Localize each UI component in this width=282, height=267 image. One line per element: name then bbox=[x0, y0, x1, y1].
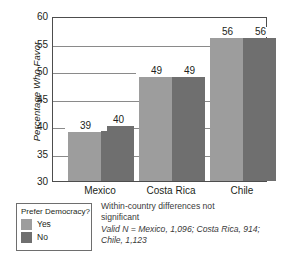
x-label-mexico: Mexico bbox=[84, 185, 116, 197]
legend-item-yes[interactable]: Yes bbox=[21, 219, 87, 230]
bar-label-costa-rica-no: 49 bbox=[169, 66, 211, 76]
legend: Prefer Democracy? Yes No bbox=[16, 203, 92, 251]
legend-item-no[interactable]: No bbox=[21, 232, 87, 243]
bar-label-mexico-no: 40 bbox=[98, 115, 140, 125]
note-line-3: Valid N = Mexico, 1,096; Costa Rica, 914… bbox=[101, 224, 279, 235]
bar-mexico-yes[interactable] bbox=[68, 132, 101, 182]
y-tick-label-35: 35 bbox=[18, 150, 48, 160]
bar-chile-yes[interactable] bbox=[210, 38, 243, 181]
chart-note: Within-country differences not significa… bbox=[101, 201, 279, 247]
bar-group-costa-rica: 49 49 bbox=[139, 18, 205, 181]
y-tick-label-40: 40 bbox=[18, 122, 48, 132]
plot-area: 39 40 49 49 56 56 bbox=[52, 17, 267, 182]
y-axis-ticks: 30 35 40 45 50 55 60 bbox=[18, 17, 48, 182]
legend-label-no: No bbox=[37, 232, 48, 243]
legend-title: Prefer Democracy? bbox=[21, 207, 87, 217]
bar-costa-rica-yes[interactable] bbox=[139, 77, 172, 182]
x-label-chile: Chile bbox=[231, 185, 254, 197]
legend-label-yes: Yes bbox=[37, 219, 51, 230]
note-line-1: Within-country differences not bbox=[101, 201, 279, 212]
bar-mexico-no[interactable] bbox=[101, 126, 134, 181]
bar-group-chile: 56 56 bbox=[210, 18, 276, 181]
y-tick-label-55: 55 bbox=[18, 40, 48, 50]
bars-layer: 39 40 49 49 56 56 bbox=[53, 18, 266, 181]
note-line-2: significant bbox=[101, 212, 279, 223]
bar-costa-rica-no[interactable] bbox=[172, 77, 205, 182]
legend-swatch-no-icon bbox=[21, 232, 32, 243]
x-axis-labels: Mexico Costa Rica Chile bbox=[52, 185, 267, 199]
bar-chile-no[interactable] bbox=[243, 38, 276, 181]
bar-label-chile-no: 56 bbox=[240, 27, 282, 37]
bar-group-mexico: 39 40 bbox=[68, 18, 134, 181]
y-tick-label-45: 45 bbox=[18, 95, 48, 105]
y-tick-label-60: 60 bbox=[18, 12, 48, 22]
x-label-costa-rica: Costa Rica bbox=[147, 185, 196, 197]
figure: Percentage Who Favor 30 35 40 45 50 55 6… bbox=[0, 0, 282, 267]
legend-swatch-yes-icon bbox=[21, 219, 32, 230]
note-line-4: Chile, 1,123 bbox=[101, 235, 279, 246]
y-tick-label-50: 50 bbox=[18, 67, 48, 77]
y-tick-label-30: 30 bbox=[18, 177, 48, 187]
